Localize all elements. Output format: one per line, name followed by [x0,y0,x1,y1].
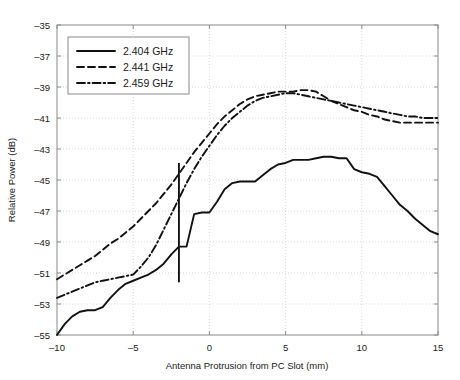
y-tick-label: –55 [34,330,50,341]
y-tick-label: –37 [34,51,50,62]
x-tick-label: 0 [207,342,212,353]
legend-label-2: 2.441 GHz [123,61,173,73]
x-axis-title: Antenna Protrusion from PC Slot (mm) [166,360,329,371]
line-chart: –55–53–51–49–47–45–43–41–39–37–35 –10–50… [0,0,460,380]
x-tick-label: 5 [283,342,288,353]
y-tick-label: –49 [34,237,50,248]
chart-figure: –55–53–51–49–47–45–43–41–39–37–35 –10–50… [0,0,460,380]
x-tick-label: –5 [128,342,139,353]
legend-label-3: 2.459 GHz [123,77,173,89]
y-tick-label: –45 [34,175,50,186]
legend-label-1: 2.404 GHz [123,45,173,57]
y-axis-title: Relative Power (dB) [6,138,17,222]
y-tick-label: –41 [34,113,50,124]
y-tick-label: –51 [34,268,50,279]
y-tick-label: –47 [34,206,50,217]
y-tick-label: –35 [34,20,50,31]
y-tick-label: –43 [34,144,50,155]
x-tick-label: –10 [49,342,65,353]
x-tick-label: 15 [433,342,444,353]
legend: 2.404 GHz2.441 GHz2.459 GHz [68,37,189,94]
y-tick-label: –53 [34,299,50,310]
y-tick-label: –39 [34,82,50,93]
x-tick-label: 10 [357,342,368,353]
